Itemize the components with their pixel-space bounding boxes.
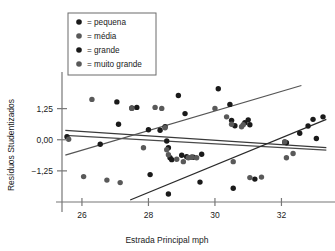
legend-label-pequena: = pequena (87, 18, 126, 27)
data-point (134, 105, 139, 110)
legend-marker-pequena (76, 19, 82, 25)
data-point (246, 117, 251, 122)
data-point (116, 122, 121, 127)
x-axis-tick-label: 32 (277, 210, 287, 220)
data-point (152, 105, 157, 110)
data-point (164, 138, 169, 143)
data-point (166, 152, 171, 157)
data-point (129, 106, 134, 111)
data-point (314, 136, 319, 141)
data-point (320, 114, 325, 119)
y-axis-tick-label: 1,25 (36, 104, 53, 114)
legend: = pequena= média= grande= muito grande (68, 13, 156, 75)
data-point (290, 151, 295, 156)
legend-marker-grande (76, 47, 82, 53)
data-point (147, 172, 152, 177)
data-point (162, 125, 167, 130)
data-point (189, 154, 194, 159)
legend-marker-muito-grande (76, 61, 82, 67)
legend-marker-média (76, 33, 82, 39)
data-point (284, 155, 289, 160)
data-point (259, 174, 264, 179)
data-point (89, 97, 94, 102)
legend-label-grande: = grande (87, 46, 120, 55)
data-point (159, 106, 164, 111)
data-point (98, 142, 103, 147)
data-point (297, 131, 302, 136)
data-point (247, 122, 252, 127)
data-points-group (64, 86, 325, 197)
x-axis-title: Estrada Principal mph (125, 235, 208, 245)
y-axis-title: Resíduos Studentizados (6, 99, 16, 191)
x-axis-tick-label: 30 (210, 210, 220, 220)
data-point (169, 157, 174, 162)
y-axis-tick-label: −1,25 (31, 166, 53, 176)
data-point (227, 102, 232, 107)
data-point (231, 186, 236, 191)
data-point (164, 147, 169, 152)
data-point (216, 86, 221, 91)
data-point (199, 151, 204, 156)
data-point (241, 122, 246, 127)
data-point (146, 127, 151, 132)
data-point (231, 159, 236, 164)
data-point (247, 175, 252, 180)
data-point (181, 159, 186, 164)
chart-canvas: 262830321,250,00−1,25 = pequena= média= … (0, 0, 335, 251)
data-point (117, 180, 122, 185)
data-point (166, 191, 171, 196)
data-point (229, 122, 234, 127)
scatter-plot-figure: 262830321,250,00−1,25 = pequena= média= … (0, 0, 335, 251)
x-axis-tick-label: 26 (77, 210, 87, 220)
data-point (197, 179, 202, 184)
data-point (176, 93, 181, 98)
data-point (252, 176, 257, 181)
data-point (224, 114, 229, 119)
data-point (194, 155, 199, 160)
data-point (104, 177, 109, 182)
x-axis-tick-label: 28 (144, 210, 154, 220)
legend-label-média: = média (87, 32, 117, 41)
data-point (174, 156, 179, 161)
data-point (157, 128, 162, 133)
data-point (310, 117, 315, 122)
y-axis-tick-label: 0,00 (36, 135, 53, 145)
data-point (114, 99, 119, 104)
data-point (282, 139, 287, 144)
data-point (182, 111, 187, 116)
data-point (81, 174, 86, 179)
axes-group: 262830321,250,00−1,25 (31, 72, 335, 220)
data-point (305, 123, 310, 128)
data-point (179, 152, 184, 157)
data-point (141, 145, 146, 150)
data-point (212, 106, 217, 111)
legend-label-muito-grande: = muito grande (87, 60, 142, 69)
